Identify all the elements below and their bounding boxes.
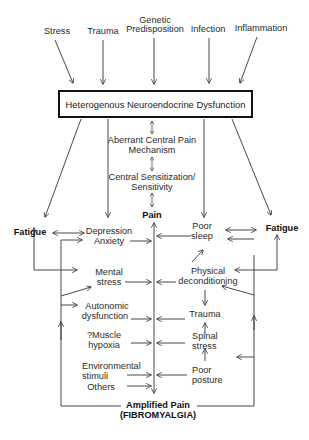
box-label: Heterogenous Neuroendocrine Dysfunction [60, 99, 251, 110]
environmental-line2: stimuli [82, 372, 108, 382]
autonomic-line2: dysfunction [82, 312, 128, 322]
spinal-line2: stress [192, 342, 217, 352]
cause-inflammation: Inflammation [235, 24, 288, 34]
right-trauma-label: Trauma [189, 310, 220, 320]
cause-trauma: Trauma [87, 27, 118, 37]
depression-line2: Anxiety [94, 237, 124, 247]
arrow-box-to-fatigue-left [45, 119, 81, 217]
others-label: Others [87, 383, 115, 393]
sensitization-line2: Sensitivity [131, 183, 172, 193]
aberrant-line2: Mechanism [129, 146, 176, 156]
pain-label: Pain [142, 211, 161, 221]
mental-line2: stress [97, 278, 122, 288]
arrow-box-to-fatigue-right [232, 119, 271, 215]
deconditioning-line2: deconditioning [178, 277, 237, 287]
sleep-line2: sleep [191, 232, 213, 242]
neuroendocrine-dysfunction-box: Heterogenous Neuroendocrine Dysfunction [58, 90, 253, 118]
arrow-stress-to-box [55, 40, 73, 83]
fatigue-right: Fatigue [266, 224, 299, 234]
fibromyalgia-pathogenesis-diagram: Stress Trauma Genetic Predisposition Inf… [0, 0, 309, 440]
arrow-inflammation-to-box [240, 37, 257, 83]
muscle-line2: hypoxia [88, 341, 120, 351]
fatigue-left: Fatigue [14, 228, 47, 238]
cause-stress: Stress [44, 27, 70, 37]
cause-infection: Infection [191, 25, 226, 35]
posture-line2: posture [192, 376, 223, 386]
cause-genetic-line2: Predisposition [126, 25, 184, 35]
outcome-line2: (FIBROMYALGIA) [120, 411, 196, 421]
